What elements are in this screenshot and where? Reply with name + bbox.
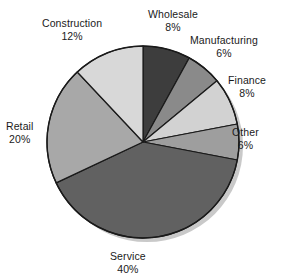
slice-label-retail-value: 20% (6, 133, 33, 146)
slice-label-construction-name: Construction (42, 17, 102, 30)
slice-label-wholesale-value: 8% (148, 21, 198, 34)
slice-label-service: Service 40% (110, 250, 146, 275)
slice-label-finance-name: Finance (228, 74, 266, 87)
slice-label-manufacturing: Manufacturing 6% (190, 34, 258, 59)
pie-chart-page: Wholesale 8% Manufacturing 6% Finance 8%… (0, 0, 292, 278)
slice-label-retail: Retail 20% (6, 120, 33, 145)
slice-label-other: Other 6% (232, 126, 259, 151)
slice-label-manufacturing-name: Manufacturing (190, 34, 258, 47)
slice-label-service-value: 40% (110, 263, 146, 276)
slice-label-other-name: Other (232, 126, 259, 139)
slice-label-construction-value: 12% (42, 30, 102, 43)
slice-label-construction: Construction 12% (42, 17, 102, 42)
slice-label-wholesale: Wholesale 8% (148, 8, 198, 33)
pie-slices-group (47, 46, 239, 238)
slice-label-other-value: 6% (232, 139, 259, 152)
slice-label-finance-value: 8% (228, 87, 266, 100)
slice-label-wholesale-name: Wholesale (148, 8, 198, 21)
slice-label-manufacturing-value: 6% (190, 47, 258, 60)
slice-label-service-name: Service (110, 250, 146, 263)
slice-label-finance: Finance 8% (228, 74, 266, 99)
slice-label-retail-name: Retail (6, 120, 33, 133)
